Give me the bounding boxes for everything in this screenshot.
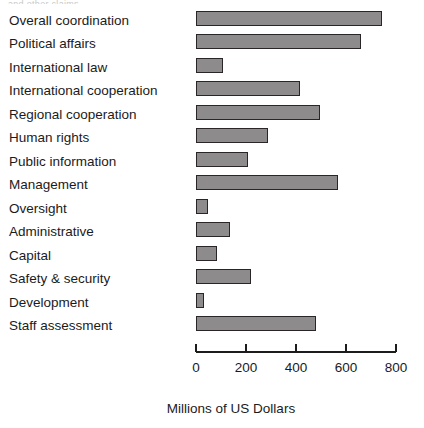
x-axis-tick-label: 200	[235, 360, 258, 376]
bar	[196, 34, 361, 49]
category-label: Capital	[9, 248, 191, 263]
bar	[196, 152, 248, 167]
x-axis-tick	[345, 344, 347, 352]
x-axis-tick-label: 400	[285, 360, 308, 376]
bar	[196, 293, 204, 308]
category-label: Administrative	[9, 224, 191, 239]
bar	[196, 11, 382, 26]
category-label: International law	[9, 60, 191, 75]
x-axis-tick	[395, 344, 397, 352]
category-label: International cooperation	[9, 83, 191, 98]
category-label: Overall coordination	[9, 13, 191, 28]
category-label: Oversight	[9, 201, 191, 216]
x-axis-title-text: Millions of US Dollars	[129, 401, 295, 416]
category-label: Public information	[9, 154, 191, 169]
x-axis-tick	[195, 344, 197, 352]
x-axis-tick-label: 0	[192, 360, 200, 376]
x-axis-title: Millions of US Dollars	[0, 401, 424, 416]
category-label: Political affairs	[9, 36, 191, 51]
bar	[196, 316, 316, 331]
bar	[196, 105, 320, 120]
x-axis-tick-label: 800	[385, 360, 408, 376]
category-label: Management	[9, 177, 191, 192]
x-axis-tick-label: 600	[335, 360, 358, 376]
bar	[196, 199, 208, 214]
bar	[196, 222, 230, 237]
category-label: Human rights	[9, 130, 191, 145]
x-axis-tick	[295, 344, 297, 352]
horizontal-bar-chart: Overall coordination Political affairs I…	[0, 0, 424, 428]
category-label: Regional cooperation	[9, 107, 191, 122]
bar	[196, 269, 251, 284]
category-label: Development	[9, 295, 191, 310]
bar	[196, 128, 268, 143]
bar	[196, 246, 217, 261]
x-axis-tick	[245, 344, 247, 352]
category-label: Staff assessment	[9, 318, 191, 333]
category-label: Safety & security	[9, 271, 191, 286]
bar	[196, 175, 338, 190]
bar	[196, 81, 300, 96]
bar	[196, 58, 223, 73]
